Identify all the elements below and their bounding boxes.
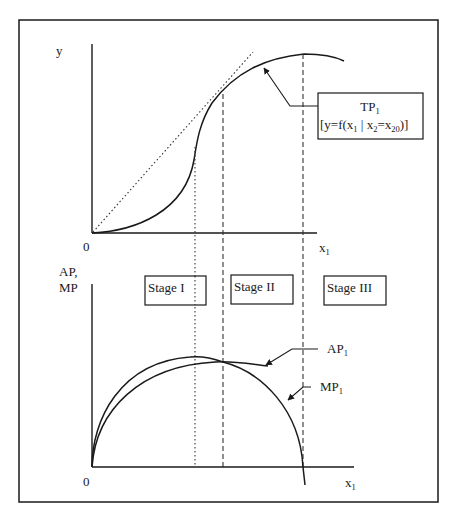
bottom-y-axis-label-ap: AP, bbox=[59, 264, 77, 279]
stage-2-label: Stage II bbox=[234, 279, 275, 294]
ap-pointer-arrow bbox=[266, 349, 318, 365]
bottom-x-axis-label: x1 bbox=[345, 475, 356, 492]
mp-label: MP1 bbox=[320, 379, 343, 396]
stage-1-label: Stage I bbox=[148, 280, 184, 295]
ap-curve bbox=[92, 362, 268, 467]
mp-curve bbox=[92, 357, 305, 485]
tp-curve bbox=[92, 54, 344, 233]
top-origin-label: 0 bbox=[83, 239, 90, 254]
tp-pointer-arrow bbox=[264, 68, 318, 106]
mp-pointer-arrow bbox=[288, 387, 311, 400]
outer-frame bbox=[19, 20, 438, 502]
top-x-axis-label: x1 bbox=[319, 240, 330, 257]
ap-label: AP1 bbox=[327, 341, 348, 358]
production-stages-diagram: y 0 x1 TP1 [y=f(x1 | x2=x20)] AP, MP 0 x… bbox=[0, 0, 455, 517]
bottom-y-axis-label-mp: MP bbox=[59, 280, 78, 295]
top-panel: y 0 x1 TP1 [y=f(x1 | x2=x20)] bbox=[56, 43, 423, 467]
stage-3-label: Stage III bbox=[327, 280, 372, 295]
top-y-axis-label: y bbox=[56, 43, 63, 58]
ray-from-origin bbox=[93, 52, 253, 232]
bottom-origin-label: 0 bbox=[83, 474, 90, 489]
